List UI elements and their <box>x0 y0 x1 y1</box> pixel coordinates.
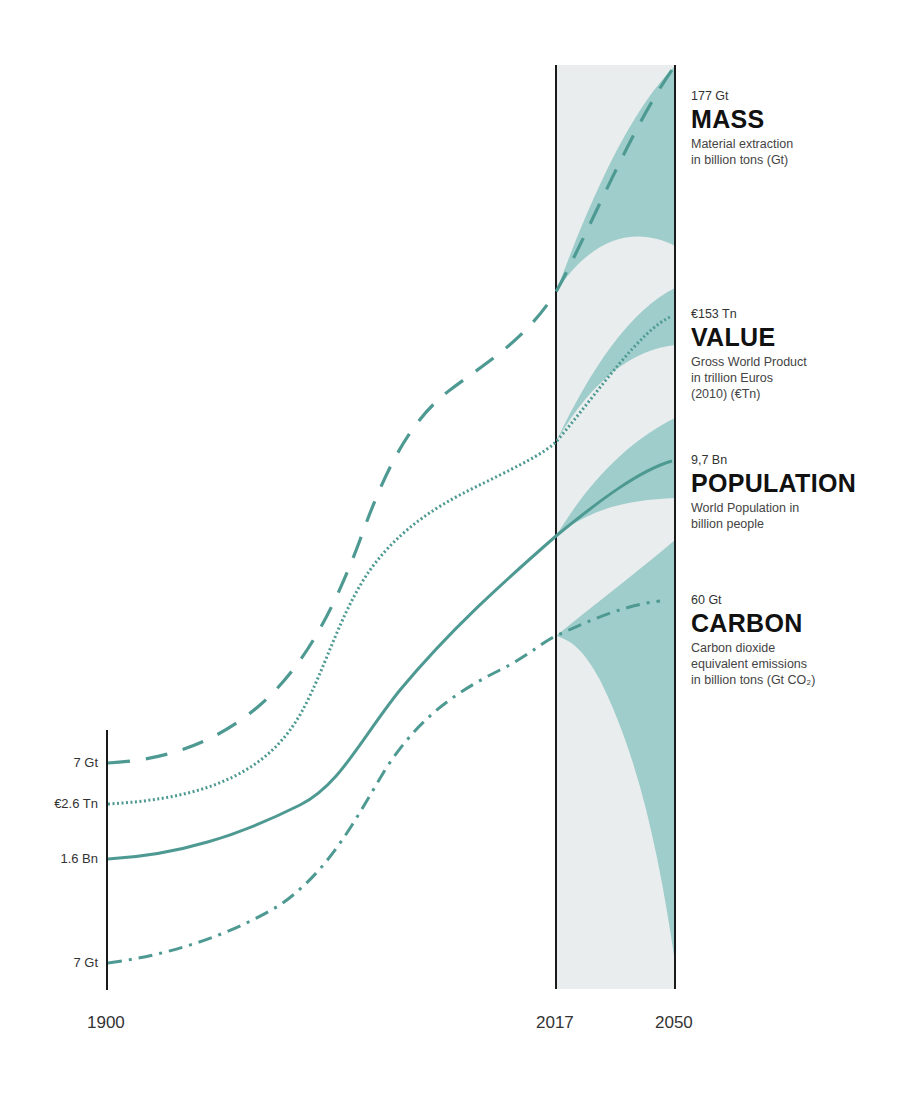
desc-line: billion people <box>691 516 891 532</box>
carbon-start-label: 7 Gt <box>8 955 98 970</box>
carbon-title: CARBON <box>691 609 891 637</box>
mass-start-label: 7 Gt <box>8 755 98 770</box>
population-start-label: 1.6 Bn <box>8 851 98 866</box>
desc-line: in billion tons (Gt) <box>691 152 891 168</box>
mass-description: Material extraction in billion tons (Gt) <box>691 136 891 168</box>
value-title: VALUE <box>691 323 891 351</box>
desc-line: World Population in <box>691 500 891 516</box>
value-start-label: €2.6 Tn <box>8 796 98 811</box>
legend-mass: 177 Gt MASS Material extraction in billi… <box>691 88 891 168</box>
year-label-2050: 2050 <box>655 1013 693 1033</box>
desc-line: equivalent emissions <box>691 656 891 672</box>
legend-carbon: 60 Gt CARBON Carbon dioxide equivalent e… <box>691 592 891 688</box>
legend-value: €153 Tn VALUE Gross World Product in tri… <box>691 306 891 402</box>
population-end-value: 9,7 Bn <box>691 452 891 468</box>
mass-title: MASS <box>691 105 891 133</box>
population-title: POPULATION <box>691 469 891 497</box>
legend-population: 9,7 Bn POPULATION World Population in bi… <box>691 452 891 532</box>
mass-end-value: 177 Gt <box>691 88 891 104</box>
desc-line: (2010) (€Tn) <box>691 386 891 402</box>
carbon-end-value: 60 Gt <box>691 592 891 608</box>
year-label-1900: 1900 <box>87 1013 125 1033</box>
year-label-2017: 2017 <box>536 1013 574 1033</box>
population-description: World Population in billion people <box>691 500 891 532</box>
value-description: Gross World Product in trillion Euros (2… <box>691 354 891 402</box>
value-end-value: €153 Tn <box>691 306 891 322</box>
desc-line: in billion tons (Gt CO₂) <box>691 672 891 688</box>
desc-line: Material extraction <box>691 136 891 152</box>
desc-line: Carbon dioxide <box>691 640 891 656</box>
desc-line: in trillion Euros <box>691 370 891 386</box>
carbon-description: Carbon dioxide equivalent emissions in b… <box>691 640 891 688</box>
desc-line: Gross World Product <box>691 354 891 370</box>
